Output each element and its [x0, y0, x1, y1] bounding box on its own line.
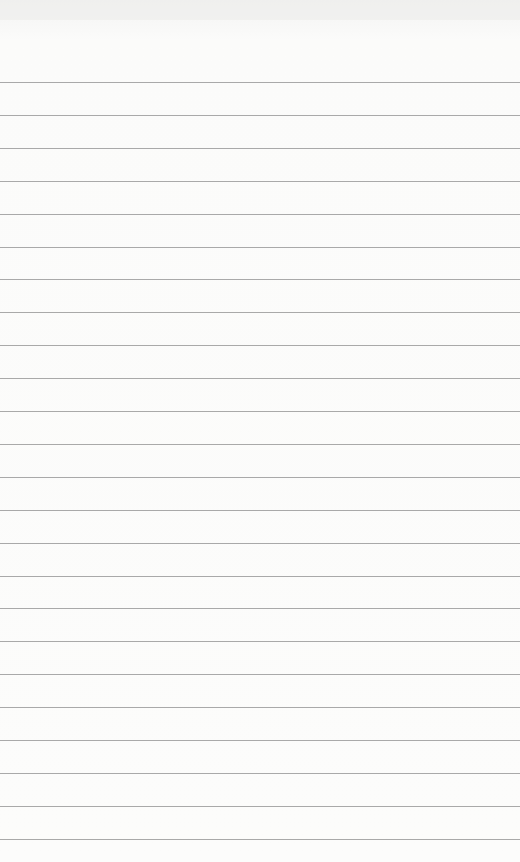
ruled-line	[0, 641, 520, 642]
ruled-line	[0, 608, 520, 609]
ruled-line	[0, 312, 520, 313]
ruled-line	[0, 247, 520, 248]
ruled-line	[0, 576, 520, 577]
ruled-line	[0, 543, 520, 544]
ruled-line	[0, 82, 520, 83]
ruled-line	[0, 279, 520, 280]
ruled-line	[0, 214, 520, 215]
ruled-line	[0, 115, 520, 116]
ruled-line	[0, 773, 520, 774]
ruled-line	[0, 181, 520, 182]
ruled-line	[0, 510, 520, 511]
lined-paper	[0, 0, 520, 862]
ruled-line	[0, 740, 520, 741]
ruled-line	[0, 345, 520, 346]
ruled-line	[0, 806, 520, 807]
ruled-line	[0, 411, 520, 412]
ruled-line	[0, 839, 520, 840]
paper-top-band	[0, 0, 520, 20]
ruled-line	[0, 674, 520, 675]
ruled-line	[0, 707, 520, 708]
ruled-line	[0, 148, 520, 149]
ruled-line	[0, 477, 520, 478]
ruled-line	[0, 444, 520, 445]
ruled-line	[0, 378, 520, 379]
